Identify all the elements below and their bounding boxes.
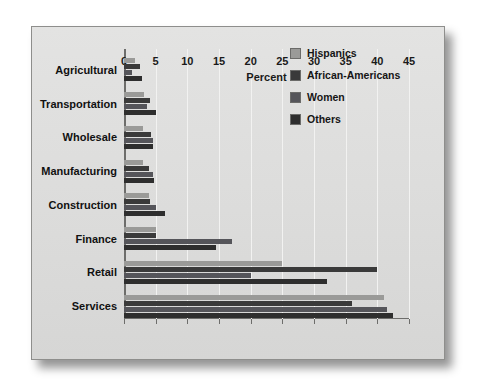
x-axis-tick	[124, 319, 125, 324]
chart-legend: HispanicsAfrican-AmericansWomenOthers	[290, 47, 400, 135]
bar	[124, 211, 165, 216]
bar	[124, 301, 352, 306]
bar	[124, 58, 135, 63]
chart-panel: 051015202530354045PercentAgriculturalTra…	[31, 26, 445, 360]
gridline	[409, 49, 410, 319]
bar	[124, 313, 393, 318]
chart-screenshot: 051015202530354045PercentAgriculturalTra…	[0, 0, 482, 390]
x-axis-tick	[314, 319, 315, 324]
legend-label: African-Americans	[307, 69, 400, 81]
bar	[124, 267, 377, 272]
bar	[124, 307, 387, 312]
bar	[124, 227, 156, 232]
legend-label: Others	[307, 113, 341, 125]
bar-group: Retail	[124, 261, 409, 284]
x-axis-tick	[346, 319, 347, 324]
bar	[124, 239, 232, 244]
bar	[124, 172, 153, 177]
bar	[124, 295, 384, 300]
legend-swatch	[290, 114, 301, 125]
x-axis-tick	[409, 319, 410, 324]
bar	[124, 144, 153, 149]
bar	[124, 279, 327, 284]
bar	[124, 233, 156, 238]
category-label: Finance	[75, 233, 117, 245]
bar	[124, 70, 132, 75]
bar	[124, 76, 142, 81]
category-label: Construction	[49, 199, 117, 211]
bar-group: Services	[124, 295, 409, 318]
bar	[124, 193, 149, 198]
legend-swatch	[290, 92, 301, 103]
bar-group: Construction	[124, 193, 409, 216]
category-label: Agricultural	[55, 64, 117, 76]
legend-swatch	[290, 70, 301, 81]
category-label: Wholesale	[63, 131, 117, 143]
bar	[124, 138, 153, 143]
bar	[124, 92, 144, 97]
category-label: Transportation	[40, 98, 117, 110]
legend-swatch	[290, 48, 301, 59]
bar	[124, 126, 143, 131]
bar	[124, 160, 143, 165]
legend-item: Women	[290, 91, 400, 103]
category-label: Services	[72, 300, 117, 312]
x-axis-tick	[251, 319, 252, 324]
bar	[124, 273, 251, 278]
bar	[124, 245, 216, 250]
bar-group: Finance	[124, 227, 409, 250]
x-axis-tick	[156, 319, 157, 324]
legend-item: Others	[290, 113, 400, 125]
legend-label: Hispanics	[307, 47, 357, 59]
bar	[124, 104, 147, 109]
category-label: Manufacturing	[41, 165, 117, 177]
bar	[124, 199, 150, 204]
bar	[124, 110, 156, 115]
bar	[124, 64, 140, 69]
x-axis-tick	[219, 319, 220, 324]
bar	[124, 205, 156, 210]
legend-item: African-Americans	[290, 69, 400, 81]
bar	[124, 98, 150, 103]
bar-group: Manufacturing	[124, 160, 409, 183]
x-axis-tick	[377, 319, 378, 324]
legend-item: Hispanics	[290, 47, 400, 59]
x-axis-tick	[187, 319, 188, 324]
bar	[124, 132, 151, 137]
bar	[124, 261, 282, 266]
x-axis-tick	[282, 319, 283, 324]
bar	[124, 178, 154, 183]
category-label: Retail	[87, 266, 117, 278]
legend-label: Women	[307, 91, 345, 103]
bar	[124, 166, 149, 171]
x-axis-line	[124, 318, 409, 319]
